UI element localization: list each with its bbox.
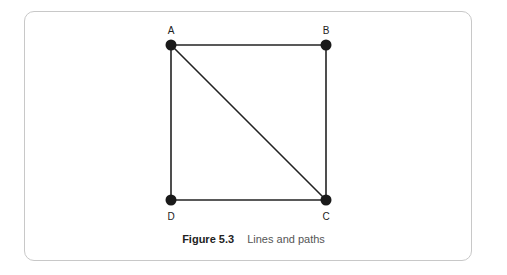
node-B — [321, 40, 332, 51]
edges — [171, 45, 326, 200]
node-label-B: B — [323, 25, 330, 36]
node-D — [166, 195, 177, 206]
node-label-A: A — [168, 25, 175, 36]
figure-number: Figure 5.3 — [182, 233, 234, 245]
node-label-C: C — [322, 211, 329, 222]
edge-A-C — [171, 45, 326, 200]
node-label-D: D — [167, 211, 174, 222]
figure-caption: Figure 5.3 Lines and paths — [0, 233, 507, 245]
node-C — [321, 195, 332, 206]
figure-title: Lines and paths — [247, 233, 325, 245]
node-A — [166, 40, 177, 51]
